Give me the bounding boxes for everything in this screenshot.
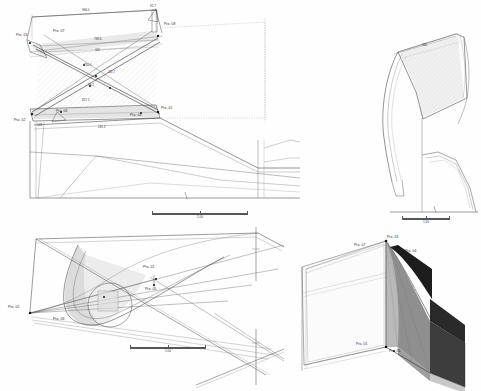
flange-left-outer — [383, 52, 398, 182]
skirt-left — [392, 180, 404, 196]
iso-point-label-p04: Pto. 04 — [405, 250, 416, 253]
body-left-diag — [38, 122, 44, 198]
section-canvas — [360, 0, 481, 225]
plan-point-label-p06: Pto. 06 — [53, 318, 64, 321]
iso-point-label-p07: Pto. 07 — [354, 244, 365, 247]
point-label-p03: Pto. 03 — [16, 34, 27, 37]
plan-left-edge — [30, 239, 36, 313]
view-plan: Pto. 02 Pto. 06 Pto. 01 Pto. 05 1.00 — [0, 225, 290, 391]
skirt-right-outer — [422, 152, 476, 212]
scale-bar-elevation: 1.00 — [152, 213, 248, 215]
scale-bar-section-label: 1.00 — [402, 220, 450, 224]
iso-point-label-p03: Pto. 03 — [387, 236, 398, 239]
scale-bar-section: 1.00 — [402, 218, 450, 220]
dimension-d6: 143 — [37, 124, 42, 127]
isometric-canvas — [290, 225, 481, 391]
dimension-d10: 96.2 — [88, 84, 94, 87]
dimension-d3: 341 — [95, 49, 100, 52]
dimension-d4: 857.1 — [82, 99, 90, 102]
body-rear-top — [264, 140, 300, 148]
scale-bar-plan-label: 1.00 — [130, 349, 206, 353]
dimension-d8: 250.4 — [84, 64, 92, 67]
flange-left-inner-2 — [392, 56, 406, 180]
dimension-d5: 281.3 — [98, 126, 106, 129]
drawing-sheet: Pto. 03 Pto. 07 Pto. 08 Pto. 01 Pto. 02 … — [0, 0, 481, 391]
iso-point-label-p05: Pto. 05 — [389, 350, 400, 353]
projection-box — [160, 22, 265, 118]
generator-curve-3 — [30, 233, 258, 313]
detail-rect — [98, 291, 118, 311]
dimension-d1: 966.0 — [82, 9, 90, 12]
scale-bar-elevation-label: 1.00 — [152, 215, 248, 219]
point-label-p01: Pto. 01 — [161, 107, 172, 110]
elevation-canvas — [0, 0, 300, 220]
body-upper-edge-2 — [34, 123, 300, 172]
plan-canvas — [0, 225, 290, 391]
chord-long-4 — [196, 349, 284, 385]
dimension-d7: 92.7 — [150, 5, 156, 8]
body-lower-fold-2 — [36, 183, 300, 198]
dimension-section-s1: 360 — [422, 44, 427, 47]
point-label-p08: Pto. 08 — [164, 23, 175, 26]
skirt-right-inner-2 — [430, 160, 470, 208]
dimension-d9: 311.7 — [108, 71, 115, 74]
body-mid-edge — [30, 152, 300, 178]
plan-point-label-p02: Pto. 02 — [8, 306, 19, 309]
plan-point-label-p05: Pto. 05 — [145, 288, 156, 291]
body-rear-mid — [264, 158, 300, 162]
point-label-p02: Pto. 02 — [14, 119, 25, 122]
iso-point-label-p01: Pto. 01 — [356, 343, 367, 346]
dimension-d2: 788.6 — [94, 38, 102, 41]
view-elevation: Pto. 03 Pto. 07 Pto. 08 Pto. 01 Pto. 02 … — [0, 0, 300, 220]
body-upper-edge — [34, 118, 300, 168]
plan-top-edge — [36, 233, 284, 247]
plan-point-label-p01: Pto. 01 — [143, 266, 154, 269]
flange-left-inner — [388, 54, 402, 182]
view-isometric: Pto. 03 Pto. 07 Pto. 04 Pto. 01 Pto. 05 — [290, 225, 481, 391]
scale-bar-plan: 1.00 — [130, 347, 206, 349]
chord-long-6 — [214, 313, 284, 359]
view-section: 360 1.00 — [360, 0, 481, 225]
plan-top-edge-2 — [36, 237, 282, 251]
point-label-p07: Pto. 07 — [53, 30, 64, 33]
point-label-p06: Pto. 06 — [56, 110, 67, 113]
bracket-detail-upper — [148, 9, 158, 22]
point-label-p04: Pto. 04 — [130, 114, 141, 117]
